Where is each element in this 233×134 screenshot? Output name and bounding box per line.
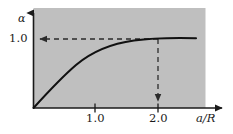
x-tick-label-1: 1.0 <box>86 113 105 125</box>
x-tick-label-2: 2.0 <box>149 113 168 125</box>
y-axis-label: α <box>18 13 25 24</box>
y-tick-label-1: 1.0 <box>9 33 28 45</box>
figure-container: α 1.0 1.0 2.0 a/R <box>0 0 233 134</box>
x-axis-label: a/R <box>196 113 215 125</box>
plot-background-panel <box>34 8 206 108</box>
